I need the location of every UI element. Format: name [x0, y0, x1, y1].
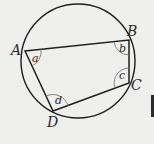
vertex-label-d: D — [46, 114, 58, 130]
vertex-label-a: A — [9, 42, 21, 58]
vertex-label-b: B — [126, 23, 137, 39]
quadrilateral-abcd — [25, 40, 129, 111]
cyclic-quadrilateral-diagram: A B C D a b c d — [0, 0, 154, 144]
edge-bar — [151, 95, 154, 117]
angle-label-a: a — [32, 52, 39, 65]
angle-label-c: c — [119, 69, 125, 82]
angle-label-b: b — [119, 42, 126, 55]
vertex-label-c: C — [131, 77, 142, 93]
angle-label-d: d — [55, 94, 62, 107]
